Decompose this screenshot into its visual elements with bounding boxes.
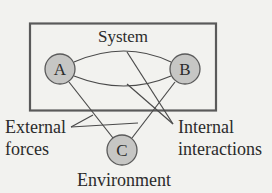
system-label: System [98,27,148,46]
node-b-label: B [179,60,190,79]
internal-leader-top [127,52,173,124]
node-a-label: A [54,60,67,79]
external-forces-label-line2: forces [5,139,49,159]
internal-leader-bottom [127,84,173,124]
internal-arc-top [74,51,171,62]
system-environment-diagram: System A B C [0,0,272,193]
environment-label: Environment [77,170,171,190]
node-c-label: C [116,141,127,160]
internal-interactions-label-line2: interactions [178,139,262,159]
external-forces-label-line1: External [5,117,66,137]
internal-interactions-label-line1: Internal [178,117,234,137]
internal-arc-bottom [74,76,171,86]
node-c: C [107,135,137,165]
node-b: B [170,54,200,84]
external-leader-upper [71,115,93,127]
node-a: A [45,54,75,84]
